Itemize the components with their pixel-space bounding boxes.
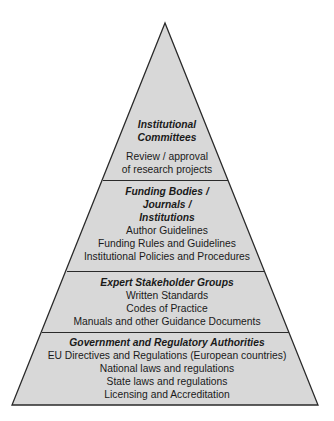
tier-expert-stakeholder-groups: Expert Stakeholder Groups Written Standa… xyxy=(0,276,334,328)
tier-item: Licensing and Accreditation xyxy=(0,388,334,401)
tier-heading: Committees xyxy=(0,131,334,144)
tier-heading: Institutions xyxy=(0,211,334,224)
tier-institutional-committees: Institutional Committees Review / approv… xyxy=(0,118,334,176)
tier-item: EU Directives and Regulations (European … xyxy=(0,349,334,362)
tier-item: Codes of Practice xyxy=(0,302,334,315)
tier-item: Manuals and other Guidance Documents xyxy=(0,315,334,328)
tier-item: of research projects xyxy=(0,163,334,176)
tier-heading: Government and Regulatory Authorities xyxy=(0,336,334,349)
tier-item: National laws and regulations xyxy=(0,362,334,375)
tier-item: Written Standards xyxy=(0,289,334,302)
tier-item: State laws and regulations xyxy=(0,375,334,388)
tier-heading: Journals / xyxy=(0,198,334,211)
tier-item: Institutional Policies and Procedures xyxy=(0,250,334,263)
tier-item: Funding Rules and Guidelines xyxy=(0,237,334,250)
tier-heading: Expert Stakeholder Groups xyxy=(0,276,334,289)
tier-government-regulatory: Government and Regulatory Authorities EU… xyxy=(0,336,334,401)
tier-heading: Institutional xyxy=(0,118,334,131)
tier-item: Author Guidelines xyxy=(0,224,334,237)
tier-heading: Funding Bodies / xyxy=(0,185,334,198)
tier-funding-bodies: Funding Bodies / Journals / Institutions… xyxy=(0,185,334,263)
tier-item: Review / approval xyxy=(0,150,334,163)
